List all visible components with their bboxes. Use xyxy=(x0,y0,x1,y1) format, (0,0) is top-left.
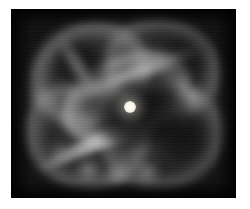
central-star xyxy=(124,101,136,113)
knot-left-rim xyxy=(29,83,53,113)
knot-lower-left xyxy=(47,141,73,163)
knot-bottom-1 xyxy=(73,159,103,181)
nebula-structure-layer xyxy=(11,9,236,198)
knot-bottom-2 xyxy=(103,165,131,185)
knot-bottom-3 xyxy=(131,161,163,183)
nebula-image-plate xyxy=(11,9,236,198)
page-canvas xyxy=(0,0,250,209)
